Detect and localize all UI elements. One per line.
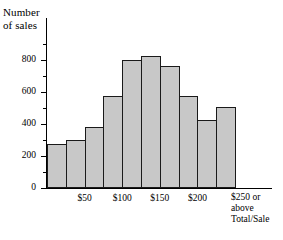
y-tick-label-200: 200: [2, 151, 36, 161]
bar: [141, 56, 161, 188]
y-tick-label-400: 400: [2, 119, 36, 129]
bar: [66, 140, 86, 188]
x-tick-label-150: $150: [140, 193, 180, 203]
x-axis-last-label: $250 or above Total/Sale: [231, 192, 269, 226]
x-axis-line: [46, 188, 272, 189]
y-tick-label-0: 0: [2, 183, 36, 193]
y-axis-title: Number of sales: [3, 6, 40, 31]
bar: [216, 107, 236, 188]
x-tick-label-200: $200: [177, 193, 217, 203]
x-tick-label-50: $50: [65, 193, 105, 203]
bar: [122, 60, 142, 188]
y-tick-label-800: 800: [2, 55, 36, 65]
bar: [103, 96, 123, 188]
bar-chart: Number of sales 0200400600800 $50$100$15…: [0, 0, 283, 240]
x-tick-label-100: $100: [102, 193, 142, 203]
bar: [197, 120, 217, 188]
bar: [160, 66, 180, 188]
bar: [47, 144, 67, 188]
bar: [85, 127, 105, 188]
bar: [179, 96, 199, 188]
plot-area: [47, 18, 235, 188]
y-tick-label-600: 600: [2, 87, 36, 97]
